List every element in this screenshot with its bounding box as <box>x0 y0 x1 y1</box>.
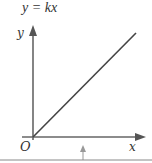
linear-graph: y x O <box>0 0 152 163</box>
origin-label: O <box>20 139 31 154</box>
proportional-line <box>33 33 136 137</box>
y-axis-arrow-icon <box>29 25 37 36</box>
pointer-arrow-icon <box>80 145 86 160</box>
x-axis <box>22 133 146 141</box>
x-axis-label: x <box>129 140 136 154</box>
y-axis-label: y <box>16 26 24 40</box>
y-axis <box>29 25 37 140</box>
x-axis-arrow-icon <box>135 133 146 141</box>
